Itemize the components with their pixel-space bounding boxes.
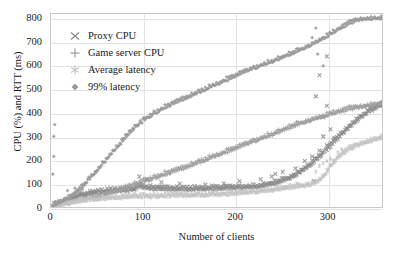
gridline-horizontal [51,209,382,210]
y-axis-label: CPU (%) and RTT (ms) [12,27,23,177]
x-marker-icon [67,29,83,43]
diamond-marker-icon [67,80,83,94]
plot-area: Proxy CPU Game server CPU Average latenc… [50,13,383,208]
legend-item-average-latency: Average latency [67,61,164,78]
legend-item-game-server-cpu: Game server CPU [67,44,164,61]
y-tick-label: 800 [8,12,42,23]
x-tick-label: 300 [308,211,348,222]
x-tick-label: 100 [123,211,163,222]
y-tick-label: 100 [8,178,42,189]
plus-marker-icon [67,46,83,60]
legend-label: 99% latency [88,80,140,94]
legend-item-proxy-cpu: Proxy CPU [67,27,164,44]
x-tick-label: 200 [215,211,255,222]
chart-legend: Proxy CPU Game server CPU Average latenc… [67,27,164,95]
chart-figure: 0 100 200 300 400 500 600 700 800 0 100 … [0,0,399,260]
legend-item-99-latency: 99% latency [67,78,164,95]
x-tick-label: 0 [30,211,70,222]
star-marker-icon [67,63,83,77]
legend-label: Game server CPU [88,46,164,60]
legend-label: Average latency [88,63,156,77]
x-axis-label: Number of clients [50,231,383,242]
legend-label: Proxy CPU [88,29,136,43]
